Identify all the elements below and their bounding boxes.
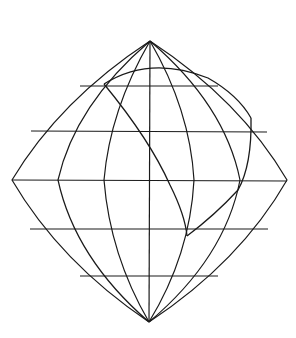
great-circle-triangle bbox=[104, 68, 251, 236]
equator bbox=[12, 180, 287, 181]
triangle-edge-right bbox=[187, 118, 251, 236]
meridian-left-1 bbox=[104, 41, 150, 322]
meridians bbox=[12, 41, 287, 322]
triangle-edge-left bbox=[104, 84, 187, 236]
central-meridian bbox=[149, 41, 150, 322]
map-projection-diagram bbox=[0, 0, 296, 338]
graticule-svg bbox=[0, 0, 296, 338]
meridian-right-1 bbox=[149, 41, 194, 322]
triangle-edge-top bbox=[104, 68, 251, 118]
parallel-30n bbox=[31, 131, 267, 132]
